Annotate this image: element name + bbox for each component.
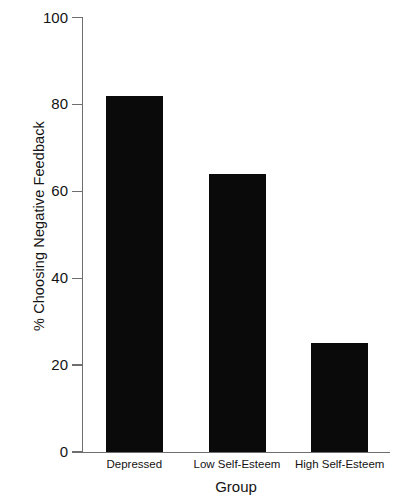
y-axis-tick-mark: [72, 451, 82, 452]
bar-chart-figure: % Choosing Negative Feedback 10080604020…: [0, 0, 400, 502]
y-axis-line: [82, 17, 83, 453]
y-axis-tick-label: 20: [8, 357, 68, 372]
y-axis-tick-label: 40: [8, 270, 68, 285]
x-axis-tick-label: High Self-Esteem: [288, 458, 391, 471]
y-axis-tick-mark: [72, 364, 82, 365]
x-axis-line: [82, 452, 390, 453]
bar: [311, 343, 368, 452]
y-axis-tick-label: 80: [8, 96, 68, 111]
y-axis-tick-label: 0: [8, 444, 68, 459]
y-axis-tick-mark: [72, 104, 82, 105]
x-axis-tick-label: Low Self-Esteem: [186, 458, 289, 471]
y-axis-tick-mark: [72, 17, 82, 18]
bar: [209, 174, 266, 452]
y-axis-tick-label: 60: [8, 183, 68, 198]
x-axis-title: Group: [82, 478, 390, 495]
y-axis-tick-mark: [72, 278, 82, 279]
x-axis-tick-label: Depressed: [83, 458, 186, 471]
bar: [106, 96, 163, 452]
y-axis-title: % Choosing Negative Feedback: [26, 0, 52, 452]
y-axis-tick-mark: [72, 191, 82, 192]
y-axis-tick-label: 100: [8, 10, 68, 25]
